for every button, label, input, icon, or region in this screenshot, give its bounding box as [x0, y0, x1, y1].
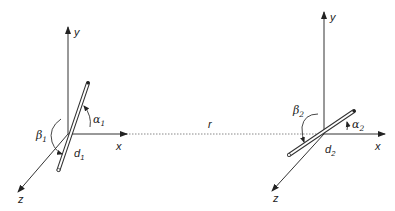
z-axis-label-2: z: [272, 192, 279, 204]
alpha-2-arc: [347, 122, 348, 130]
x-axis-label-2: x: [374, 140, 381, 152]
y-axis-label-1: y: [73, 26, 81, 38]
x-axis-label-1: x: [115, 140, 122, 152]
dipole-2-label: d2: [325, 143, 336, 158]
alpha-1-label: α1: [93, 113, 105, 128]
dipole-geometry-diagram: r y x z α1 β1 d1 y x z: [0, 0, 395, 211]
coordinate-system-1: y x z α1 β1 d1: [17, 26, 127, 205]
z-axis-label-1: z: [17, 193, 24, 205]
beta-1-arc: [51, 119, 62, 154]
beta-1-label: β1: [35, 129, 47, 144]
dipole-1-label: d1: [74, 147, 84, 162]
coordinate-system-2: y x z α2 β2 d2: [272, 11, 385, 204]
alpha-1-arc: [84, 106, 90, 127]
separation-label: r: [208, 118, 213, 130]
alpha-2-label: α2: [352, 118, 364, 133]
y-axis-label-2: y: [329, 11, 337, 23]
z-axis-2: [272, 134, 324, 191]
beta-2-label: β2: [292, 104, 304, 119]
